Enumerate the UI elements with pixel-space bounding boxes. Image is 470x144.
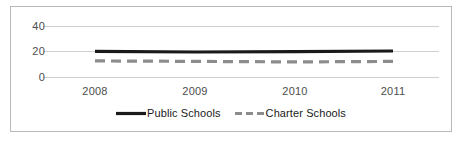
- x-tick-label-2011: 2011: [363, 86, 423, 97]
- x-tick-label-2008: 2008: [65, 86, 125, 97]
- legend-item-public-schools[interactable]: Public Schools: [116, 108, 221, 119]
- y-tick-label-0: 0: [11, 72, 45, 83]
- series-public-schools: [95, 51, 393, 52]
- plot-area: 40 20 0 2008 2009 2010 2011 Public Schoo…: [11, 7, 451, 131]
- legend-label-charter-schools: Charter Schools: [266, 108, 346, 119]
- public-schools-line: [95, 51, 393, 52]
- series-charter-schools: [95, 61, 393, 62]
- solid-line-icon: [116, 109, 146, 118]
- charter-schools-line: [95, 61, 393, 62]
- legend-label-public-schools: Public Schools: [147, 108, 221, 119]
- x-tick-label-2010: 2010: [265, 86, 325, 97]
- chart-figure: 40 20 0 2008 2009 2010 2011 Public Schoo…: [10, 6, 452, 132]
- dashed-line-icon: [235, 109, 265, 118]
- y-tick-label-40: 40: [11, 21, 45, 32]
- chart-legend: Public Schools Charter Schools: [11, 105, 451, 121]
- x-tick-label-2009: 2009: [165, 86, 225, 97]
- legend-item-charter-schools[interactable]: Charter Schools: [235, 108, 346, 119]
- y-tick-label-20: 20: [11, 46, 45, 57]
